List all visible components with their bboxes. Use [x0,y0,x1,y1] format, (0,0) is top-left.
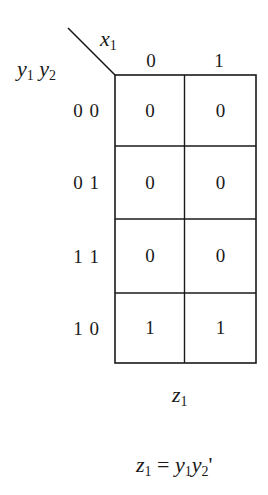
kmap-cell: 0 [185,219,256,293]
column-header-1: 1 [204,50,234,72]
boolean-equation: z1 = y1y2' [136,452,212,480]
row-variable-label: y1 y2 [17,56,56,84]
row-header-10: 1 0 [40,318,100,340]
kmap-cell: 0 [185,75,256,146]
column-header-0: 0 [136,50,166,72]
kmap-cell: 0 [115,75,185,146]
output-name-label: z1 [172,382,188,410]
row-header-01: 0 1 [40,172,100,194]
kmap-cell: 1 [115,293,185,363]
row-header-11: 1 1 [40,246,100,268]
kmap-cell: 0 [185,146,256,219]
kmap-cell: 1 [185,293,256,363]
kmap-cell: 0 [115,146,185,219]
column-variable-label: x1 [100,26,117,54]
kmap-cell: 0 [115,219,185,293]
row-header-00: 0 0 [40,100,100,122]
